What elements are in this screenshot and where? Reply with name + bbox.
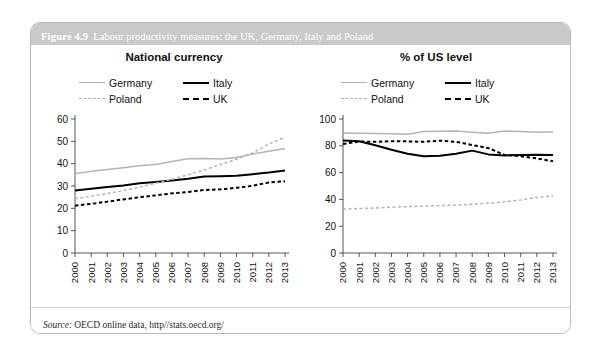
y-tick-label: 50 — [57, 136, 69, 147]
legend-item-uk-right: UK — [445, 93, 531, 105]
x-tick-label: 2007 — [182, 262, 193, 283]
y-tick-label: 60 — [325, 167, 337, 178]
legend-line-italy-icon — [183, 79, 209, 87]
x-tick-label: 2005 — [418, 262, 429, 283]
x-tick-label: 2009 — [215, 262, 226, 283]
legend-item-poland: Poland — [79, 93, 165, 105]
x-tick-label: 2004 — [402, 262, 413, 283]
legend-line-germany-icon — [341, 79, 367, 87]
series-line-italy — [75, 171, 285, 191]
chart-pct-of-us-level: % of US level Germany Italy — [303, 45, 569, 309]
series-line-uk — [343, 141, 553, 162]
legend-item-germany-right: Germany — [341, 77, 427, 89]
y-tick-label: 40 — [325, 194, 337, 205]
chart-right-title: % of US level — [303, 51, 569, 63]
y-tick-label: 10 — [57, 225, 69, 236]
series-line-uk — [75, 181, 285, 205]
series-line-germany — [343, 131, 553, 134]
figure-number: Figure 4.9 — [41, 31, 88, 42]
x-tick-label: 2006 — [166, 262, 177, 283]
figure-title-bar: Figure 4.9Labour productivity measures: … — [31, 23, 570, 45]
x-tick-label: 2011 — [247, 262, 258, 282]
figure-source: Source:OECD online data, http//stats.oec… — [31, 307, 570, 333]
series-line-italy — [343, 140, 553, 156]
legend-label-germany-right: Germany — [371, 77, 414, 89]
legend-line-poland-icon — [79, 95, 105, 103]
x-tick-label: 2002 — [370, 262, 381, 283]
x-tick-label: 2013 — [547, 262, 558, 283]
legend-item-poland-right: Poland — [341, 93, 427, 105]
x-tick-label: 2000 — [337, 262, 348, 283]
chart-national-currency: National currency Germany Italy — [39, 45, 309, 309]
legend-label-italy: Italy — [213, 77, 232, 89]
legend-item-italy: Italy — [183, 77, 269, 89]
chart-left-plot: 0102030405060200020012002200320042005200… — [39, 111, 309, 309]
legend-item-germany: Germany — [79, 77, 165, 89]
chart-left-svg: 0102030405060200020012002200320042005200… — [39, 111, 309, 309]
series-line-germany — [75, 148, 285, 173]
charts-container: National currency Germany Italy — [31, 45, 570, 309]
legend-label-germany: Germany — [109, 77, 152, 89]
source-text: OECD online data, http//stats.oecd.org/ — [74, 320, 224, 330]
y-tick-label: 40 — [57, 158, 69, 169]
chart-left-title: National currency — [39, 51, 309, 63]
x-tick-label: 2004 — [134, 262, 145, 283]
chart-right-legend: Germany Italy Poland — [303, 75, 569, 109]
chart-right-plot: 0204060801002000200120022003200420052006… — [303, 111, 569, 309]
y-tick-label: 20 — [57, 203, 69, 214]
x-tick-label: 2001 — [354, 262, 365, 283]
x-tick-label: 2010 — [499, 262, 510, 283]
x-tick-label: 2012 — [531, 262, 542, 283]
x-tick-label: 2011 — [515, 262, 526, 282]
y-tick-label: 20 — [325, 221, 337, 232]
chart-right-svg: 0204060801002000200120022003200420052006… — [303, 111, 569, 309]
x-tick-label: 2005 — [150, 262, 161, 283]
series-line-poland — [343, 196, 553, 209]
series-line-poland — [75, 137, 285, 198]
legend-line-poland-icon — [341, 95, 367, 103]
legend-label-poland-right: Poland — [371, 93, 404, 105]
y-tick-label: 60 — [57, 114, 69, 125]
legend-line-uk-icon — [445, 95, 471, 103]
x-tick-label: 2002 — [102, 262, 113, 283]
x-tick-label: 2013 — [279, 262, 290, 283]
legend-line-uk-icon — [183, 95, 209, 103]
x-tick-label: 2007 — [450, 262, 461, 283]
chart-left-legend: Germany Italy Poland — [39, 75, 309, 109]
y-tick-label: 30 — [57, 181, 69, 192]
x-tick-label: 2010 — [231, 262, 242, 283]
x-tick-label: 2001 — [86, 262, 97, 283]
legend-item-italy-right: Italy — [445, 77, 531, 89]
x-tick-label: 2008 — [199, 262, 210, 283]
x-tick-label: 2006 — [434, 262, 445, 283]
y-tick-label: 80 — [325, 140, 337, 151]
x-tick-label: 2003 — [386, 262, 397, 283]
legend-line-italy-icon — [445, 79, 471, 87]
x-tick-label: 2012 — [263, 262, 274, 283]
source-label: Source: — [43, 320, 72, 330]
legend-line-germany-icon — [79, 79, 105, 87]
legend-item-uk: UK — [183, 93, 269, 105]
figure-panel: Figure 4.9Labour productivity measures: … — [30, 22, 571, 334]
x-tick-label: 2003 — [118, 262, 129, 283]
figure-page: Figure 4.9Labour productivity measures: … — [0, 0, 603, 356]
legend-label-uk-right: UK — [475, 93, 490, 105]
figure-title: Labour productivity measures: the UK, Ge… — [93, 31, 373, 42]
legend-label-italy-right: Italy — [475, 77, 494, 89]
x-tick-label: 2009 — [483, 262, 494, 283]
legend-label-uk: UK — [213, 93, 228, 105]
legend-label-poland: Poland — [109, 93, 142, 105]
x-tick-label: 2008 — [467, 262, 478, 283]
x-tick-label: 2000 — [69, 262, 80, 283]
y-tick-label: 0 — [330, 248, 336, 259]
y-tick-label: 0 — [62, 248, 68, 259]
y-tick-label: 100 — [319, 114, 336, 125]
